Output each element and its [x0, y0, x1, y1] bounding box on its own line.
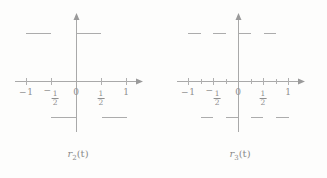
caption-arg: (t) [239, 148, 251, 159]
x-tick-label-1: 1 [285, 88, 291, 97]
x-tick-label-zero: 0 [73, 88, 79, 97]
panel-caption-r2: r2(t) [67, 148, 88, 162]
plot-panel-r3: −1 −12 0 12 1 r3(t) [164, 0, 327, 178]
y-axis-arrowhead [74, 13, 80, 20]
panel-caption-r3: r3(t) [229, 148, 250, 162]
x-tick-label-half: 12 [98, 86, 105, 106]
x-tick-label-neg1: −1 [181, 88, 195, 97]
y-axis-arrowhead [236, 13, 242, 20]
x-axis-arrowhead [136, 79, 143, 85]
x-tick-label-zero: 0 [235, 88, 241, 97]
x-tick-label-neg1: −1 [19, 88, 33, 97]
rademacher-functions-figure: −1 −12 0 12 1 r2(t) [0, 0, 327, 178]
x-tick-label-neg-half: −12 [206, 86, 221, 106]
x-tick-label-neg-half: −12 [44, 86, 59, 106]
x-axis-arrowhead [298, 79, 305, 85]
caption-arg: (t) [77, 148, 89, 159]
x-tick-label-1: 1 [123, 88, 129, 97]
x-tick-label-half: 12 [260, 86, 267, 106]
plot-panel-r2: −1 −12 0 12 1 r2(t) [0, 0, 163, 178]
